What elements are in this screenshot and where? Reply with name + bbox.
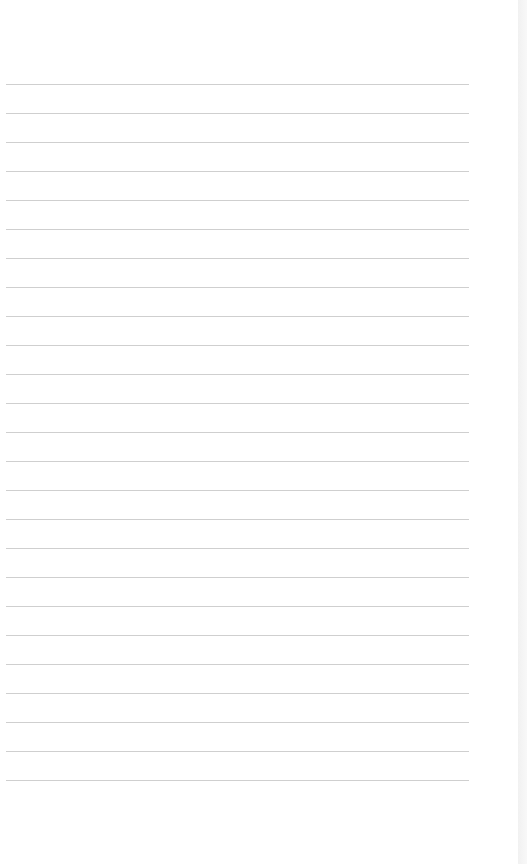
ruled-line: [6, 374, 469, 375]
ruled-line: [6, 548, 469, 549]
ruled-line: [6, 287, 469, 288]
ruled-line: [6, 577, 469, 578]
ruled-line: [6, 722, 469, 723]
ruled-line: [6, 461, 469, 462]
ruled-line: [6, 432, 469, 433]
ruled-line: [6, 171, 469, 172]
ruled-line: [6, 519, 469, 520]
ruled-line: [6, 780, 469, 781]
ruled-line: [6, 316, 469, 317]
lined-paper-page: [0, 0, 518, 864]
ruled-line: [6, 403, 469, 404]
ruled-line: [6, 142, 469, 143]
page-edge-shadow: [518, 0, 527, 864]
ruled-line: [6, 113, 469, 114]
ruled-line: [6, 635, 469, 636]
ruled-line: [6, 258, 469, 259]
ruled-line: [6, 84, 469, 85]
ruled-line: [6, 664, 469, 665]
ruled-line: [6, 490, 469, 491]
ruled-line: [6, 751, 469, 752]
ruled-line: [6, 693, 469, 694]
ruled-line: [6, 200, 469, 201]
ruled-line: [6, 606, 469, 607]
ruled-line: [6, 229, 469, 230]
ruled-line: [6, 345, 469, 346]
